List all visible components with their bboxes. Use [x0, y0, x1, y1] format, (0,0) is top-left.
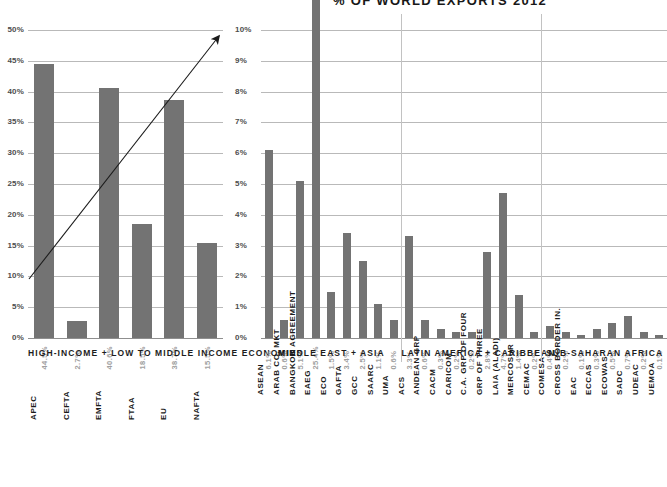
bar-category-label: ECO [320, 376, 328, 395]
bar [164, 100, 184, 338]
bar-category-label: EMFTA [95, 390, 103, 420]
bar-category-label: COMESA [538, 356, 546, 395]
right-y-tick-label: 5% [235, 180, 259, 188]
right-y-tick-label: 0% [235, 334, 259, 342]
bar-category-label: EAC [570, 376, 578, 395]
right-y-tick-label: 6% [235, 149, 259, 157]
left-group-label: HIGH-INCOME + LOW TO MIDDLE INCOME ECONO… [28, 349, 223, 358]
left-y-tick-label: 30% [0, 149, 24, 157]
left-gridline [28, 215, 223, 216]
bar-category-label: GCC [351, 375, 359, 395]
bar [343, 233, 351, 338]
left-y-tick-label: 20% [0, 211, 24, 219]
bar [437, 329, 445, 338]
bar [655, 335, 663, 338]
bar [99, 88, 119, 338]
bar-category-label: NAFTA [193, 390, 201, 420]
bar-category-label: CEFTA [63, 391, 71, 420]
right-y-tick-label: 7% [235, 118, 259, 126]
bar [483, 252, 491, 338]
left-chart-panel: 0%5%10%15%20%25%30%35%40%45%50%44.5%APEC… [0, 0, 250, 487]
bar [359, 261, 367, 338]
bar-category-label: UEMOA [648, 362, 656, 395]
bar [421, 320, 429, 338]
bar [562, 332, 570, 338]
right-y-tick-label: 8% [235, 88, 259, 96]
bar [197, 243, 217, 338]
left-gridline [28, 153, 223, 154]
left-y-tick-label: 10% [0, 272, 24, 280]
bar [132, 224, 152, 338]
right-gridline [261, 30, 667, 31]
bar-category-label: CARICOM [445, 353, 453, 395]
left-gridline [28, 61, 223, 62]
right-gridline [261, 246, 667, 247]
left-gridline [28, 246, 223, 247]
bar [265, 150, 273, 338]
right-group-label: MIDDLE EAST + ASIA [261, 349, 402, 358]
left-gridline [28, 338, 223, 339]
bar [327, 292, 335, 338]
bar-category-label: SADC [616, 370, 624, 395]
bar [593, 329, 601, 338]
bar [296, 181, 304, 338]
bar-category-label: ECCAS [585, 364, 593, 395]
left-y-tick-label: 25% [0, 180, 24, 188]
bar-category-label: ASEAN [257, 364, 265, 395]
left-gridline [28, 184, 223, 185]
left-gridline [28, 122, 223, 123]
right-gridline [261, 215, 667, 216]
bar [640, 332, 648, 338]
left-gridline [28, 30, 223, 31]
left-gridline [28, 307, 223, 308]
bar [608, 323, 616, 338]
left-y-tick-label: 45% [0, 57, 24, 65]
right-chart-panel: % OF WORLD EXPORTS 2012 0%1%2%3%4%5%6%7%… [223, 0, 667, 487]
right-gridline [261, 184, 667, 185]
bar [312, 0, 320, 338]
left-y-tick-label: 0% [0, 334, 24, 342]
right-gridline [261, 92, 667, 93]
bar [577, 335, 585, 338]
bar-category-label: BANGKOK AGREEMENT [289, 290, 297, 395]
chart-title: % OF WORLD EXPORTS 2012 [333, 0, 547, 7]
right-y-tick-label: 4% [235, 211, 259, 219]
bar-category-label: SAARC [367, 364, 375, 395]
bar [390, 320, 398, 338]
right-gridline [261, 307, 667, 308]
bar [280, 320, 288, 338]
right-y-tick-label: 2% [235, 272, 259, 280]
bar [405, 236, 413, 338]
right-gridline [261, 276, 667, 277]
right-group-label: LATIN AMERICA + CARIBBEAN [402, 349, 543, 358]
right-y-tick-label: 3% [235, 242, 259, 250]
chart-page: 0%5%10%15%20%25%30%35%40%45%50%44.5%APEC… [0, 0, 667, 487]
bar-category-label: APEC [30, 395, 38, 420]
left-gridline [28, 92, 223, 93]
bar [515, 295, 523, 338]
bar [374, 304, 382, 338]
bar-category-label: EU [160, 408, 168, 420]
right-y-tick-label: 1% [235, 303, 259, 311]
right-gridline [261, 122, 667, 123]
bar [624, 316, 632, 338]
left-y-tick-label: 50% [0, 26, 24, 34]
bar-category-label: CACM [429, 369, 437, 395]
bar [67, 321, 87, 338]
left-y-tick-label: 5% [0, 303, 24, 311]
left-y-tick-label: 15% [0, 242, 24, 250]
left-y-tick-label: 40% [0, 88, 24, 96]
bar-category-label: UMA [382, 375, 390, 395]
bar [530, 332, 538, 338]
right-y-tick-label: 10% [235, 26, 259, 34]
bar-category-label: ECOWAS [601, 356, 609, 395]
right-gridline [261, 61, 667, 62]
bar [34, 64, 54, 338]
bar-category-label: GAFTA [335, 365, 343, 395]
bar-category-label: UDEAC [632, 364, 640, 395]
right-y-tick-label: 9% [235, 57, 259, 65]
bar-category-label: EAEG [304, 370, 312, 395]
group-separator [541, 14, 542, 362]
bar-category-label: ACS [398, 376, 406, 395]
bar-category-label: ARAB CO. MKT [273, 329, 281, 395]
